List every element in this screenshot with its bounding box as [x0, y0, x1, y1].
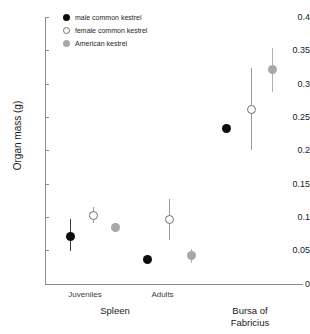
x-major-label-spleen: Spleen — [85, 305, 145, 316]
filled-circle-icon — [63, 14, 70, 21]
y-tick-label: 0.2 — [272, 146, 310, 155]
legend-item-male: male common kestrel — [63, 12, 147, 23]
open-circle-icon — [63, 27, 70, 34]
data-point-male — [143, 255, 152, 264]
y-tick-mark — [45, 217, 49, 218]
x-group-label-juveniles: Juveniles — [60, 290, 110, 299]
data-point-american — [187, 251, 196, 260]
y-tick-mark — [45, 150, 49, 151]
data-point-american — [268, 65, 277, 74]
x-group-label-adults: Adults — [140, 290, 185, 299]
y-axis-title: Organ mass (g) — [12, 91, 23, 181]
y-tick-label: 0 — [272, 280, 310, 289]
y-tick-mark — [45, 284, 49, 285]
y-tick-mark — [45, 50, 49, 51]
y-tick-label: 0.15 — [272, 180, 310, 189]
y-tick-mark — [45, 184, 49, 185]
grey-circle-icon — [63, 40, 70, 47]
y-tick-mark — [45, 84, 49, 85]
legend-label: American kestrel — [75, 40, 127, 48]
y-tick-mark — [45, 250, 49, 251]
data-point-female — [165, 215, 174, 224]
data-point-female — [89, 211, 98, 220]
y-tick-mark — [45, 17, 49, 18]
organ-mass-scatter-chart: Organ mass (g) 0.4 0.35 0.3 0.25 0.2 0.1… — [0, 0, 310, 334]
y-tick-label: 0.35 — [272, 46, 310, 55]
legend-label: female common kestrel — [75, 27, 147, 35]
legend: male common kestrel female common kestre… — [63, 12, 147, 51]
y-tick-label: 0.1 — [272, 213, 310, 222]
y-tick-label: 0.25 — [272, 113, 310, 122]
x-major-label-bursa-line2: Fabricius — [215, 317, 285, 328]
y-tick-mark — [45, 117, 49, 118]
x-axis-line — [45, 284, 303, 285]
data-point-male — [222, 124, 231, 133]
y-tick-label: 0.4 — [272, 13, 310, 22]
y-tick-label: 0.3 — [272, 80, 310, 89]
legend-label: male common kestrel — [75, 14, 142, 22]
y-tick-label: 0.05 — [272, 246, 310, 255]
x-major-label-bursa-line1: Bursa of — [215, 305, 285, 316]
legend-item-female: female common kestrel — [63, 25, 147, 36]
data-point-male — [66, 232, 75, 241]
data-point-american — [111, 223, 120, 232]
data-point-female — [247, 105, 256, 114]
legend-item-american: American kestrel — [63, 38, 147, 49]
